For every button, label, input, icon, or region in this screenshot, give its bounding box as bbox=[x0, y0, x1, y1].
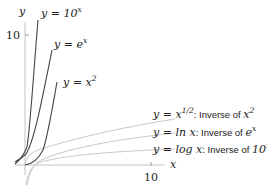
y-axis-label: y bbox=[18, 5, 26, 18]
label-ln-x: y = ln x: Inverse of ex bbox=[152, 124, 257, 139]
curve-e-x bbox=[15, 50, 52, 162]
y-tick-label: 10 bbox=[6, 29, 20, 42]
x-axis-label: x bbox=[170, 158, 177, 171]
label-e-x: y = ex bbox=[53, 36, 88, 51]
label-10-x: y = 10x bbox=[40, 5, 82, 20]
x-tick-label: 10 bbox=[144, 171, 158, 184]
label-x-2: y = x2 bbox=[62, 74, 97, 89]
label-sqrt-x: y = x1/2: Inverse of x2 bbox=[152, 106, 255, 121]
label-log-x: y = log x: Inverse of 10x bbox=[152, 141, 267, 156]
function-plot: y x 10 10 y = 10x y = ex y = x2 y = x1/2… bbox=[0, 0, 267, 185]
